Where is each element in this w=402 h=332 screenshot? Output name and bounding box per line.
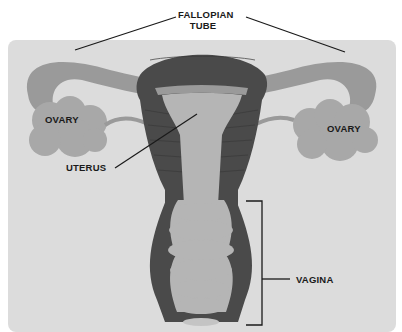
label-vagina: VAGINA — [296, 274, 333, 285]
reproductive-system-illustration — [0, 0, 402, 332]
label-fallopian-line1: FALLOPIAN — [178, 9, 228, 20]
label-fallopian-tube: FALLOPIAN TUBE — [178, 9, 228, 31]
fallopian-leader-right — [246, 17, 345, 52]
label-ovary-right: OVARY — [327, 123, 361, 134]
label-fallopian-line2: TUBE — [178, 20, 228, 31]
label-uterus: UTERUS — [66, 162, 106, 173]
label-ovary-left: OVARY — [45, 114, 79, 125]
fallopian-leader-left — [75, 17, 176, 50]
ovary-left-shape — [29, 96, 107, 157]
